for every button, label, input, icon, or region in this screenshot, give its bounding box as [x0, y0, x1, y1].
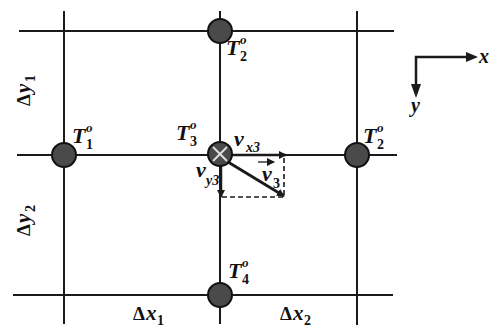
- label-dy2: Δ y 2: [11, 205, 38, 236]
- x-axis-label: x: [478, 45, 489, 67]
- svg-text:T: T: [363, 123, 378, 148]
- axes-indicator: x y: [409, 45, 489, 117]
- label-dy1: Δ y 1: [11, 75, 38, 106]
- svg-text:2: 2: [304, 313, 311, 328]
- label-vx3: v x3: [234, 126, 260, 155]
- x-axis-arrow-icon: [466, 52, 478, 62]
- svg-text:o: o: [377, 120, 384, 135]
- svg-text:T: T: [226, 35, 241, 60]
- svg-text:Δ: Δ: [133, 303, 145, 324]
- svg-text:v: v: [262, 161, 272, 186]
- svg-text:2: 2: [240, 49, 247, 64]
- label-dx2: Δ x 2: [280, 301, 311, 328]
- svg-text:x: x: [145, 301, 157, 325]
- label-t2-right: T o 2: [363, 120, 384, 152]
- svg-text:y: y: [11, 213, 35, 226]
- svg-text:2: 2: [377, 137, 384, 152]
- label-t3: T o 3: [176, 117, 197, 149]
- svg-text:T: T: [72, 123, 87, 148]
- svg-text:2: 2: [23, 205, 38, 212]
- nodes: [52, 19, 369, 307]
- label-t4: T o 4: [228, 255, 249, 287]
- svg-text:1: 1: [157, 313, 164, 328]
- axes-corner: [416, 57, 470, 87]
- svg-text:1: 1: [23, 75, 38, 82]
- svg-text:T: T: [228, 258, 243, 283]
- svg-text:o: o: [190, 117, 197, 132]
- svg-text:x: x: [292, 301, 304, 325]
- svg-text:Δ: Δ: [13, 94, 34, 106]
- label-t1: T o 1: [72, 120, 93, 152]
- y-axis-label: y: [409, 94, 420, 117]
- svg-text:1: 1: [86, 137, 93, 152]
- svg-text:T: T: [176, 120, 191, 145]
- svg-text:o: o: [86, 120, 93, 135]
- grid-diagram: T o 2 T o 1 T o 3 T o 2 T o 4 v x3 v y3 …: [0, 0, 500, 333]
- svg-text:o: o: [242, 255, 249, 270]
- svg-text:4: 4: [242, 272, 249, 287]
- svg-text:o: o: [240, 32, 247, 47]
- svg-text:y: y: [11, 83, 35, 96]
- label-t2-top: T o 2: [226, 32, 247, 64]
- label-dx1: Δ x 1: [133, 301, 164, 328]
- svg-text:Δ: Δ: [280, 303, 292, 324]
- node-t4-bottom: [208, 283, 232, 307]
- svg-text:v: v: [196, 157, 206, 182]
- svg-text:Δ: Δ: [13, 224, 34, 236]
- svg-text:y3: y3: [204, 173, 219, 188]
- svg-text:3: 3: [273, 176, 280, 191]
- svg-text:x3: x3: [245, 140, 260, 155]
- svg-text:3: 3: [190, 134, 197, 149]
- svg-text:v: v: [234, 126, 244, 151]
